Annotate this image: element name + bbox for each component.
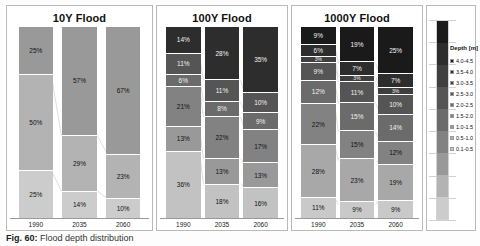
bar-segment[interactable]: 11%	[166, 53, 201, 74]
bar-segment[interactable]: 6%	[301, 44, 336, 56]
bar-100y-2060[interactable]: 35%10%9%17%13%16%	[243, 27, 278, 218]
bar-segment[interactable]: 9%	[378, 200, 413, 218]
legend-label: 0.1-0.5	[456, 146, 473, 152]
bar-1000y-2060[interactable]: 25%7%3%10%14%12%19%9%	[378, 27, 413, 218]
chart-panel-1000y: 1000Y Flood 9%6%3%9%12%22%28%11% 19%7%3%…	[291, 5, 423, 231]
legend-swatch	[450, 125, 454, 129]
bar-segment[interactable]: 57%	[62, 27, 96, 135]
bar-10y-2060[interactable]: 67%23%10%	[106, 27, 140, 218]
bar-segment[interactable]: 14%	[62, 191, 96, 218]
legend-item[interactable]: 3.5-4.0	[450, 66, 480, 77]
bar-100y-1990[interactable]: 14%11%6%21%13%36%	[166, 27, 201, 218]
bar-100y-2035[interactable]: 28%11%8%22%13%18%	[205, 27, 240, 218]
bar-segment[interactable]: 36%	[166, 151, 201, 218]
bar-segment[interactable]: 19%	[378, 164, 413, 200]
bar-segment[interactable]: 22%	[301, 103, 336, 144]
bar-segment[interactable]: 19%	[340, 27, 375, 61]
legend-item[interactable]: 2.0-2.5	[450, 99, 480, 110]
bar-segment[interactable]: 16%	[243, 187, 278, 218]
bar-segment[interactable]: 13%	[166, 126, 201, 151]
bar-segment[interactable]: 11%	[205, 79, 240, 100]
legend-label: 4.0-4.5	[456, 58, 473, 64]
colorbar-band	[437, 175, 448, 197]
bar-segment[interactable]: 28%	[205, 27, 240, 79]
bar-segment[interactable]: 6%	[166, 74, 201, 86]
legend-label: 2.5-3.0	[456, 91, 473, 97]
bar-segment[interactable]: 9%	[301, 62, 336, 80]
bar-segment[interactable]: 9%	[243, 112, 278, 130]
chart-title-1000y: 1000Y Flood	[295, 8, 419, 27]
bar-segment-label: 35%	[254, 56, 267, 63]
bar-segment[interactable]: 8%	[205, 101, 240, 117]
bar-segment[interactable]: 28%	[301, 144, 336, 197]
bar-segment[interactable]: 13%	[205, 158, 240, 183]
chart-panel-10y: 10Y Flood 25%50%25% 57%29%14% 67%23%10% …	[6, 5, 153, 231]
x-axis-100y: 1990 2035 2060	[160, 219, 284, 229]
bar-segment[interactable]: 7%	[340, 61, 375, 75]
legend-swatch	[450, 92, 454, 96]
bar-segment[interactable]: 9%	[340, 201, 375, 218]
caption-figure-number: Fig. 60:	[6, 233, 38, 243]
bar-segment[interactable]: 29%	[62, 135, 96, 191]
bar-segment-label: 10%	[389, 101, 402, 108]
bar-segment[interactable]: 15%	[340, 102, 375, 130]
bar-segment-label: 28%	[312, 168, 325, 175]
bar-10y-2035[interactable]: 57%29%14%	[62, 27, 96, 218]
bar-segment[interactable]: 14%	[378, 114, 413, 141]
legend-item[interactable]: 4.0-4.5	[450, 55, 480, 66]
bar-1000y-2035[interactable]: 19%7%3%11%15%15%23%9%	[340, 27, 375, 218]
bar-segment[interactable]: 11%	[301, 197, 336, 218]
bar-segment[interactable]: 10%	[243, 92, 278, 112]
bar-segment[interactable]: 25%	[378, 27, 413, 73]
legend-item[interactable]: 2.5-3.0	[450, 88, 480, 99]
bar-segment-label: 9%	[314, 68, 323, 75]
bar-segment-label: 11%	[312, 204, 325, 211]
bar-segment[interactable]: 35%	[243, 27, 278, 92]
legend-item[interactable]: 1.5-2.0	[450, 110, 480, 121]
bar-segment-label: 28%	[215, 50, 228, 57]
x-tick-2035: 2035	[205, 220, 240, 229]
bar-segment-label: 16%	[254, 200, 267, 207]
bar-segment[interactable]: 50%	[19, 74, 53, 170]
bar-segment-label: 23%	[350, 177, 363, 184]
bar-segment-label: 6%	[314, 47, 323, 54]
bar-segment[interactable]: 7%	[378, 73, 413, 87]
bar-1000y-1990[interactable]: 9%6%3%9%12%22%28%11%	[301, 27, 336, 218]
bar-segment-label: 14%	[73, 201, 86, 208]
bar-segment[interactable]: 10%	[378, 94, 413, 114]
bar-segment[interactable]: 17%	[243, 129, 278, 162]
legend-item[interactable]: 3.0-3.5	[450, 77, 480, 88]
bar-segment[interactable]: 9%	[301, 27, 336, 44]
bar-segment[interactable]: 15%	[340, 130, 375, 158]
colorbar-band	[437, 131, 448, 153]
bar-segment[interactable]: 11%	[340, 81, 375, 102]
bar-segment[interactable]: 25%	[19, 170, 53, 218]
bar-segment[interactable]: 12%	[301, 80, 336, 103]
bar-segment[interactable]: 13%	[243, 162, 278, 187]
bar-segment[interactable]: 23%	[340, 158, 375, 200]
bar-segment-label: 12%	[312, 88, 325, 95]
legend-panel: Depth [m] 4.0-4.53.5-4.03.0-3.52.5-3.02.…	[426, 5, 476, 231]
bar-segment[interactable]: 67%	[106, 27, 140, 154]
x-tick-2035: 2035	[62, 220, 96, 229]
bar-segment-label: 57%	[73, 77, 86, 84]
bar-segment-label: 6%	[179, 77, 188, 84]
colorbar	[436, 20, 449, 220]
legend-item[interactable]: 0.5-1.0	[450, 132, 480, 143]
bar-segment[interactable]: 25%	[19, 27, 53, 74]
bar-segment[interactable]: 18%	[205, 184, 240, 218]
bar-segment[interactable]: 14%	[166, 27, 201, 53]
legend-item[interactable]: 0.1-0.5	[450, 143, 480, 154]
bar-segment-label: 14%	[177, 36, 190, 43]
legend-item[interactable]: 1.0-1.5	[450, 121, 480, 132]
bar-segment[interactable]: 22%	[205, 116, 240, 158]
bar-segment[interactable]: 23%	[106, 154, 140, 198]
bar-segment-label: 36%	[177, 181, 190, 188]
legend-swatch	[450, 147, 454, 151]
bar-segment[interactable]: 21%	[166, 86, 201, 126]
bar-segment[interactable]: 12%	[378, 141, 413, 164]
plot-area-100y: 14%11%6%21%13%36% 28%11%8%22%13%18% 35%1…	[160, 27, 284, 219]
bar-10y-1990[interactable]: 25%50%25%	[19, 27, 53, 218]
bar-segment[interactable]: 10%	[106, 198, 140, 218]
bar-segment[interactable]: 3%	[378, 87, 413, 94]
